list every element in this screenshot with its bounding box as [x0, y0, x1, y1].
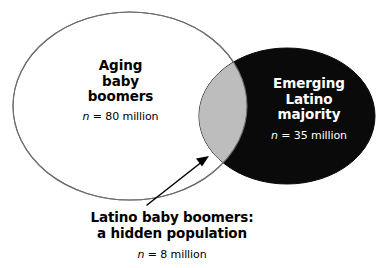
- caption-line-1: Latino baby boomers:: [38, 209, 306, 225]
- n-value: = 8 million: [148, 248, 207, 261]
- intersection-count: n = 8 million: [38, 248, 306, 261]
- venn-diagram-figure: Aging baby boomers n = 80 million Emergi…: [0, 0, 385, 268]
- caption-line-2: a hidden population: [38, 225, 306, 241]
- n-symbol: n: [137, 248, 144, 261]
- caption-title: Latino baby boomers: a hidden population: [38, 209, 306, 242]
- intersection-caption-latino-baby-boomers: Latino baby boomers: a hidden population…: [38, 209, 306, 261]
